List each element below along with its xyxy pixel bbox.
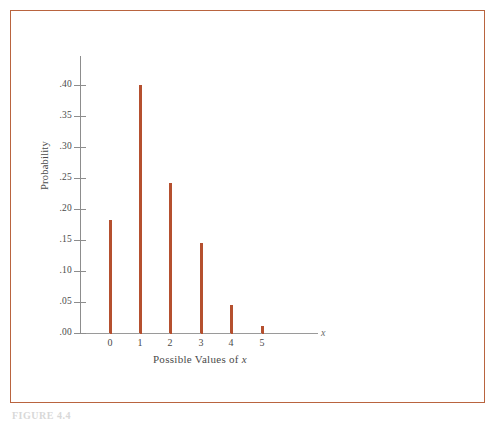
figure-caption: FIGURE 4.4 (12, 410, 71, 421)
y-tick-label-wrap: .05 (42, 296, 72, 308)
y-axis-title: Probability (39, 116, 50, 216)
y-tick-mark (74, 209, 86, 210)
y-tick-label: .25 (46, 172, 72, 182)
bar-3 (200, 243, 203, 333)
y-tick-label: .15 (46, 234, 72, 244)
y-tick-label: .20 (46, 203, 72, 213)
x-tick-label: 2 (160, 337, 180, 348)
x-tick-label: 5 (252, 337, 272, 348)
bar-4 (230, 305, 233, 333)
y-tick-label: .00 (46, 327, 72, 337)
y-tick-mark (74, 240, 86, 241)
x-axis-title-text: Possible Values of (153, 353, 242, 365)
y-tick-label-wrap: .00 (42, 327, 72, 339)
x-tick-label: 3 (191, 337, 211, 348)
y-tick-label: .10 (46, 265, 72, 275)
x-axis-end-variable: x (321, 327, 325, 338)
y-tick-mark (74, 271, 86, 272)
bar-2 (169, 183, 172, 333)
y-tick-mark (74, 178, 86, 179)
y-tick-label: .05 (46, 296, 72, 306)
y-tick-label: .40 (46, 79, 72, 89)
y-tick-mark (74, 147, 86, 148)
x-axis-line (80, 333, 318, 334)
x-axis-title-variable: x (242, 353, 247, 365)
y-tick-mark (74, 85, 86, 86)
y-tick-label-wrap: .10 (42, 265, 72, 277)
y-tick-label-wrap: .40 (42, 79, 72, 91)
y-tick-label-wrap: .15 (42, 234, 72, 246)
y-tick-mark (74, 302, 86, 303)
y-tick-label: .35 (46, 110, 72, 120)
bar-1 (139, 85, 142, 333)
y-tick-mark (74, 333, 86, 334)
x-tick-label: 1 (130, 337, 150, 348)
y-tick-mark (74, 116, 86, 117)
y-tick-label: .30 (46, 141, 72, 151)
x-tick-label: 0 (100, 337, 120, 348)
bar-5 (261, 326, 264, 333)
x-axis-title: Possible Values of x (80, 353, 320, 365)
probability-distribution-chart: .00 .05 .10 .15 .20 .25 .30 .35 .40 0 1 … (0, 0, 497, 424)
y-axis-line (80, 56, 81, 334)
bar-0 (109, 220, 112, 333)
x-tick-label: 4 (221, 337, 241, 348)
